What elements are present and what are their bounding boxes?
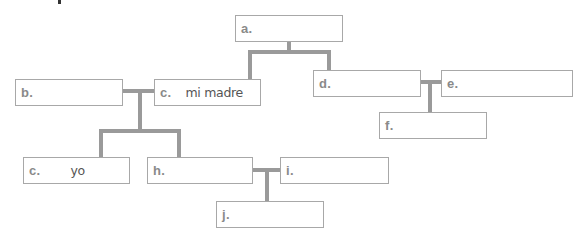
node-h[interactable]: h. [147, 157, 253, 184]
node-label: c. [29, 163, 40, 178]
connector-to-c-yo [99, 129, 103, 157]
connector-b-c-children [99, 129, 181, 133]
node-label: j. [222, 207, 230, 222]
node-e[interactable]: e. [441, 70, 573, 97]
node-label: e. [447, 76, 458, 91]
connector-a-horizontal [248, 50, 331, 54]
node-value: mi madre [185, 85, 243, 100]
connector-to-c-madre [248, 50, 252, 79]
node-i[interactable]: i. [280, 157, 389, 184]
connector-b-c-down [138, 89, 142, 132]
connector-to-d [327, 50, 331, 70]
node-label: f. [385, 118, 394, 133]
node-a[interactable]: a. [235, 15, 343, 42]
connector-d-e-down [428, 80, 432, 112]
node-value: yo [70, 163, 84, 178]
connector-to-h [177, 129, 181, 157]
node-f[interactable]: f. [379, 112, 487, 139]
node-label: a. [241, 21, 252, 36]
node-label: c. [160, 85, 171, 100]
node-j[interactable]: j. [216, 201, 324, 228]
node-label: b. [21, 85, 33, 100]
node-c-yo[interactable]: c. yo [23, 157, 130, 184]
cropped-text-fragment [58, 0, 61, 4]
node-label: d. [319, 76, 331, 91]
connector-h-i-down [265, 168, 269, 201]
node-b[interactable]: b. [15, 79, 123, 106]
node-label: h. [153, 163, 165, 178]
node-d[interactable]: d. [313, 70, 421, 97]
node-c-mi-madre[interactable]: c. mi madre [154, 79, 261, 106]
node-label: i. [286, 163, 294, 178]
